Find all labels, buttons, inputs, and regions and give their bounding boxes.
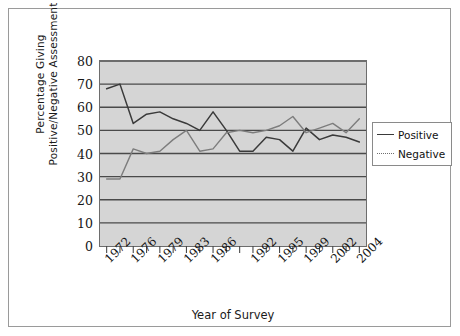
y-axis-title: Percentage Giving Positive/Negative Asse… (30, 0, 64, 184)
chart-canvas (100, 61, 366, 246)
series-line-positive (107, 84, 360, 151)
dotted-line-key-icon (377, 149, 394, 158)
y-axis-tick-labels: 01020304050607080 (65, 60, 93, 247)
x-axis-title: Year of Survey (99, 308, 367, 322)
series-line-negative (107, 117, 360, 179)
solid-line-key-icon (377, 130, 394, 139)
legend-label-negative: Negative (398, 148, 445, 160)
legend-item-negative: Negative (377, 147, 447, 161)
y-tick-label: 70 (77, 77, 93, 92)
y-axis-title-line-1: Percentage Giving (34, 34, 47, 133)
legend-label-positive: Positive (398, 129, 438, 141)
y-tick-label: 20 (77, 192, 93, 207)
x-axis-tick-labels: 1972197619791983198619921995199920022004 (99, 250, 374, 302)
plot-area (99, 60, 367, 247)
y-tick-label: 10 (77, 215, 93, 230)
y-tick-label: 50 (77, 123, 93, 138)
figure-frame: Percentage Giving Positive/Negative Asse… (8, 8, 451, 327)
y-tick-label: 30 (77, 169, 93, 184)
y-tick-label: 0 (85, 239, 93, 254)
chart-legend: Positive Negative (372, 122, 452, 166)
y-tick-label: 60 (77, 100, 93, 115)
legend-item-positive: Positive (377, 128, 447, 142)
y-tick-label: 40 (77, 146, 93, 161)
y-tick-label: 80 (77, 54, 93, 69)
y-axis-title-line-2: Positive/Negative Assessment (47, 2, 60, 165)
plot-background (99, 60, 367, 247)
chart-page: Percentage Giving Positive/Negative Asse… (0, 0, 460, 336)
